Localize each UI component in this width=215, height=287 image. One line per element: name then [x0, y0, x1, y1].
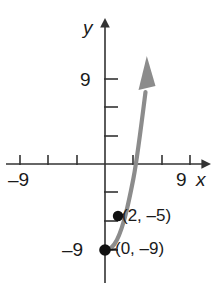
y-tick-label-neg9: –9 [62, 240, 83, 259]
y-tick-label-9: 9 [80, 70, 91, 89]
point-label-2-neg5: (2, –5) [122, 207, 171, 224]
function-curve [104, 92, 146, 252]
coordinate-plane [0, 0, 215, 287]
curve-arrowhead [139, 56, 156, 90]
y-axis-label: y [83, 18, 93, 37]
x-axis-label: x [196, 170, 206, 189]
x-tick-label-neg9: –9 [8, 170, 29, 189]
x-tick-label-9: 9 [176, 170, 187, 189]
point-label-0-neg9: (0, –9) [115, 240, 164, 257]
graph-figure: y x 9 –9 –9 9 (2, –5) (0, –9) [0, 0, 215, 287]
